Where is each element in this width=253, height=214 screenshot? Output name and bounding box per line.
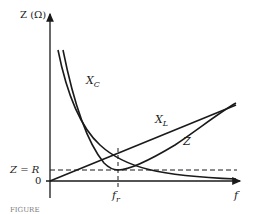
z-equals-r-label: Z = R — [9, 164, 40, 175]
impedance-vs-frequency-diagram: Z (Ω) XC XL Z Z = R 0 fr f FIGURE — [0, 0, 253, 214]
y-axis-label: Z (Ω) — [20, 9, 46, 20]
z-curve — [63, 50, 236, 170]
z-curve-label: Z — [182, 135, 191, 148]
xc-label: XC — [85, 74, 100, 89]
resonant-frequency-label: fr — [111, 189, 121, 204]
figure-caption: FIGURE — [10, 206, 40, 214]
x-axis-label: f — [233, 189, 240, 202]
origin-label: 0 — [35, 175, 41, 186]
xl-label: XL — [154, 113, 168, 128]
